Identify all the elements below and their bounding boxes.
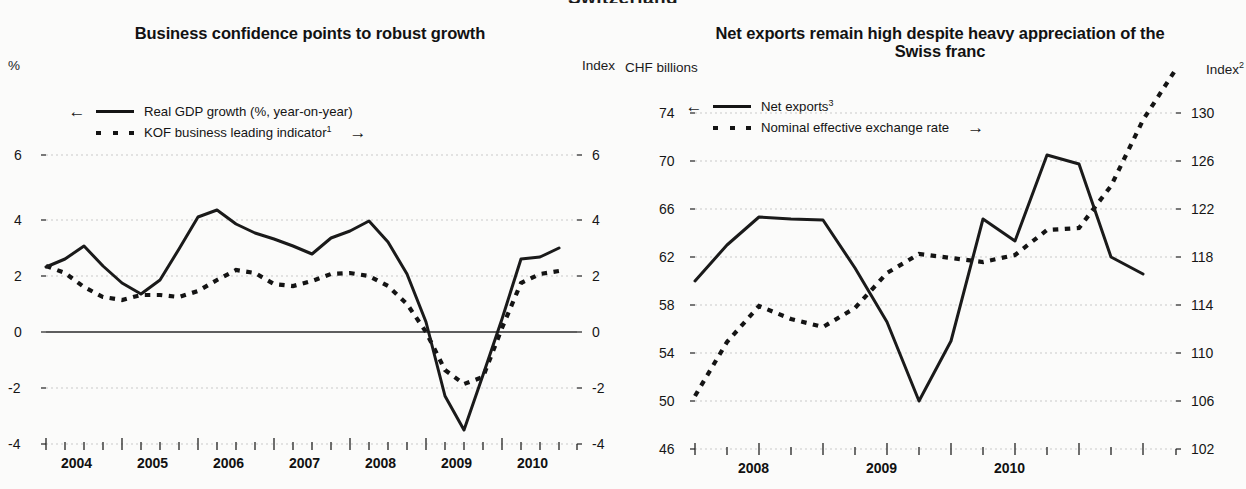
xtick-2005: 2005 [137, 455, 168, 471]
ytick-right-130: 130 [1191, 105, 1214, 121]
ytick-left-46: 46 [659, 441, 675, 457]
ytick-left-62: 62 [659, 249, 675, 265]
ytick-right-6: 6 [592, 147, 600, 163]
plot-svg-right [623, 0, 1246, 489]
ytick-right-122: 122 [1191, 201, 1214, 217]
ytick-right-0: 0 [592, 324, 600, 340]
plot-area-left [0, 0, 623, 489]
ytick-left-m4: -4 [8, 436, 20, 452]
ytick-right-126: 126 [1191, 153, 1214, 169]
ytick-right-114: 114 [1191, 297, 1213, 313]
plot-svg-left [0, 0, 623, 489]
ytick-right-102: 102 [1191, 441, 1214, 457]
ytick-left-2: 2 [14, 268, 22, 284]
xtick-2004: 2004 [61, 455, 92, 471]
ytick-right-106: 106 [1191, 393, 1214, 409]
xtick-2008: 2008 [738, 460, 769, 476]
ytick-left-6: 6 [14, 147, 22, 163]
ytick-left-50: 50 [659, 393, 675, 409]
figure-root: Switzerland Business confidence points t… [0, 0, 1246, 489]
ytick-left-0: 0 [14, 324, 22, 340]
ytick-left-74: 74 [659, 105, 675, 121]
ytick-left-66: 66 [659, 201, 675, 217]
xtick-2007: 2007 [289, 455, 320, 471]
ytick-left-4: 4 [14, 212, 22, 228]
chart-panel-business-confidence: Business confidence points to robust gro… [0, 0, 623, 489]
xtick-2006: 2006 [213, 455, 244, 471]
ytick-left-m2: -2 [8, 380, 20, 396]
ytick-left-58: 58 [659, 297, 675, 313]
ytick-right-118: 118 [1191, 249, 1213, 265]
plot-area-right [623, 0, 1246, 489]
xtick-2010: 2010 [994, 460, 1025, 476]
ytick-left-54: 54 [659, 345, 675, 361]
ytick-right-m4: -4 [592, 436, 604, 452]
y-axis-right-ticks-right-panel [1176, 113, 1181, 449]
y-axis-left-ticks [41, 155, 46, 444]
ytick-right-4: 4 [592, 212, 600, 228]
gridlines-right [695, 113, 1176, 449]
xtick-2010: 2010 [517, 455, 548, 471]
xtick-2009: 2009 [866, 460, 897, 476]
series-net-exports [695, 155, 1143, 401]
ytick-right-m2: -2 [592, 380, 604, 396]
xtick-2009: 2009 [441, 455, 472, 471]
ytick-right-2: 2 [592, 268, 600, 284]
chart-panel-net-exports: Net exports remain high despite heavy ap… [623, 0, 1246, 489]
xtick-2008: 2008 [365, 455, 396, 471]
ytick-right-110: 110 [1191, 345, 1213, 361]
y-axis-right-ticks [577, 155, 582, 444]
ytick-left-70: 70 [659, 153, 675, 169]
series-real-gdp-growth [46, 210, 559, 430]
